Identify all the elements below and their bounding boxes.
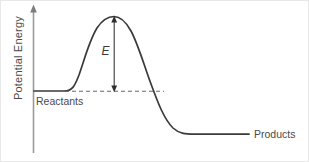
y-axis-up-arrow-icon [30,5,37,13]
energy-diagram-canvas: Potential Energy E Reactants Products [1,1,309,162]
y-axis-label: Potential Energy [12,16,24,100]
reaction-coordinate-curve [34,17,249,135]
activation-energy-label: E [101,44,110,58]
potential-energy-diagram: Potential Energy E Reactants Products [0,0,309,162]
products-label: Products [254,128,295,140]
reactants-label: Reactants [36,95,83,107]
